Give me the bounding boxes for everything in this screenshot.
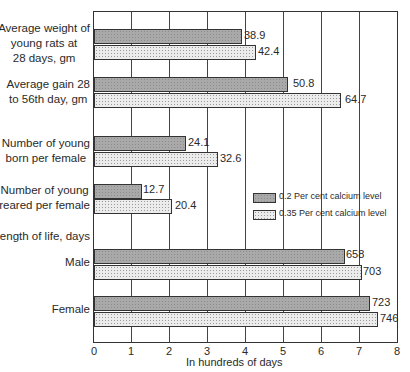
category-label-reared: Number of young reared per female <box>0 183 90 213</box>
label-line: to 56th day, gm <box>6 92 90 107</box>
label-line: Number of young <box>0 183 90 198</box>
gridline <box>131 12 132 342</box>
value-label: 20.4 <box>175 199 196 212</box>
legend-label: 0.2 Per cent calcium level <box>279 191 382 201</box>
category-label-born: Number of young born per female <box>2 136 90 166</box>
legend-swatch-dark <box>253 193 276 203</box>
label-line: young rats at <box>0 36 90 51</box>
label-line: 28 days, gm <box>0 51 90 66</box>
category-label-life-header: Length of life, days <box>0 229 90 244</box>
gridline <box>321 12 322 342</box>
label-line: born per female <box>2 151 90 166</box>
bar-gain-0.35 <box>94 93 341 108</box>
x-tick: 0 <box>84 345 104 357</box>
value-label: 723 <box>372 296 390 309</box>
value-label: 64.7 <box>345 93 366 106</box>
gridline <box>283 12 284 342</box>
category-label-male: Male <box>65 255 90 270</box>
gridline <box>359 12 360 342</box>
value-label: 50.8 <box>293 77 314 90</box>
label-line: reared per female <box>0 198 90 213</box>
bar-male-0.35 <box>94 265 362 280</box>
x-tick: 2 <box>159 345 179 357</box>
bar-weight-0.35 <box>94 45 256 60</box>
legend-label: 0.35 Per cent calcium level <box>279 208 387 218</box>
calcium-level-bar-chart: Average weight of young rats at 28 days,… <box>0 0 410 372</box>
plot-area <box>93 11 398 343</box>
legend-swatch-light <box>253 210 276 220</box>
bar-reared-0.35 <box>94 199 172 214</box>
category-label-gain: Average gain 28 to 56th day, gm <box>6 77 90 107</box>
value-label: 746 <box>380 312 398 325</box>
category-label-female: Female <box>52 302 90 317</box>
bar-born-0.2 <box>94 136 186 151</box>
value-label: 703 <box>363 265 381 278</box>
category-label-weight: Average weight of young rats at 28 days,… <box>0 21 90 66</box>
label-line: Number of young <box>2 136 90 151</box>
x-tick: 7 <box>349 345 369 357</box>
bar-reared-0.2 <box>94 184 142 199</box>
bar-female-0.2 <box>94 296 370 311</box>
x-tick: 6 <box>311 345 331 357</box>
value-label: 38.9 <box>244 29 265 42</box>
value-label: 24.1 <box>188 136 209 149</box>
x-tick: 8 <box>387 345 407 357</box>
gridline <box>169 12 170 342</box>
bar-born-0.35 <box>94 152 218 167</box>
value-label: 658 <box>346 248 364 261</box>
label-line: Average weight of <box>0 21 90 36</box>
x-axis-label: In hundreds of days <box>186 356 283 368</box>
x-tick: 1 <box>121 345 141 357</box>
gridline <box>245 12 246 342</box>
gridline <box>207 12 208 342</box>
value-label: 42.4 <box>258 45 279 58</box>
bar-gain-0.2 <box>94 77 288 92</box>
value-label: 32.6 <box>220 152 241 165</box>
bar-female-0.35 <box>94 312 378 327</box>
label-line: Average gain 28 <box>6 77 90 92</box>
bar-weight-0.2 <box>94 29 242 44</box>
value-label: 12.7 <box>143 183 164 196</box>
bar-male-0.2 <box>94 249 345 264</box>
